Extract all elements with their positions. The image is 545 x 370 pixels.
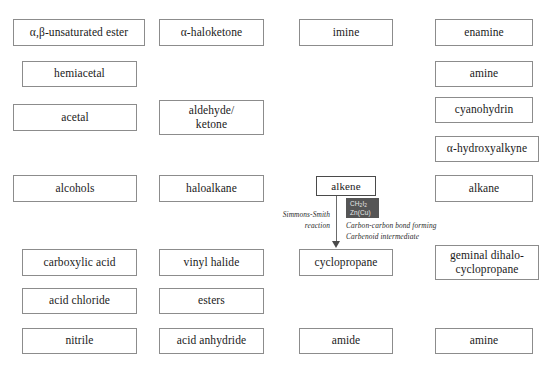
fg-label: cyclopropane [314, 256, 377, 270]
fg-box-imine[interactable]: imine [299, 19, 393, 46]
fg-box-alkene[interactable]: alkene [316, 176, 376, 196]
fg-label: α-hydroxyalkyne [447, 142, 527, 156]
fg-box-enamine[interactable]: enamine [435, 19, 533, 46]
fg-box-alpha-hydroxyalkyne[interactable]: α-hydroxyalkyne [435, 136, 539, 162]
fg-box-haloalkane[interactable]: haloalkane [159, 175, 264, 202]
annotation-reaction-name: Simmons-Smith reaction [272, 209, 330, 231]
fg-label: amine [470, 67, 499, 81]
fg-box-vinyl-halide[interactable]: vinyl halide [159, 249, 264, 276]
fg-label: alkane [469, 182, 500, 196]
reagent-chip: CH2I2 Zn(Cu) [346, 198, 379, 218]
reaction-arrow-head [332, 241, 340, 248]
annotation-mechanism: Carbon-carbon bond forming Carbenoid int… [346, 220, 476, 242]
fg-label: carboxylic acid [43, 256, 115, 270]
fg-label: α,β-unsaturated ester [30, 26, 128, 40]
annotation-line-1: Simmons-Smith [272, 209, 330, 220]
fg-box-acetal[interactable]: acetal [13, 104, 137, 131]
fg-box-amide[interactable]: amide [299, 328, 393, 354]
annotation-line-1: Carbon-carbon bond forming [346, 220, 476, 231]
fg-box-acid-chloride[interactable]: acid chloride [22, 288, 137, 314]
reaction-arrow-shaft [336, 196, 337, 243]
fg-label: acid chloride [49, 294, 110, 308]
fg-box-amine-bottom[interactable]: amine [435, 328, 533, 354]
fg-label: vinyl halide [184, 256, 240, 270]
reagent-line-2: Zn(Cu) [350, 209, 376, 218]
fg-box-nitrile[interactable]: nitrile [22, 328, 137, 354]
fg-box-hemiacetal[interactable]: hemiacetal [22, 61, 137, 87]
fg-box-alkane[interactable]: alkane [435, 175, 533, 202]
fg-label: alkene [331, 180, 360, 193]
fg-label: acid anhydride [177, 334, 246, 348]
fg-box-alpha-haloketone[interactable]: α-haloketone [159, 19, 264, 46]
fg-label: alcohols [55, 182, 94, 196]
fg-box-geminal-dihalo-cyclopropane[interactable]: geminal dihalo- cyclopropane [435, 245, 539, 280]
functional-group-diagram: α,β-unsaturated ester α-haloketone imine… [0, 0, 545, 370]
fg-label: cyanohydrin [455, 103, 514, 117]
fg-box-esters[interactable]: esters [159, 288, 264, 314]
fg-label: α-haloketone [181, 26, 243, 40]
fg-label: amine [470, 334, 499, 348]
fg-label: amide [332, 334, 361, 348]
fg-box-carboxylic-acid[interactable]: carboxylic acid [22, 249, 137, 276]
fg-box-cyanohydrin[interactable]: cyanohydrin [435, 97, 533, 123]
annotation-line-2: Carbenoid intermediate [346, 231, 476, 242]
fg-label: nitrile [65, 334, 93, 348]
fg-label: acetal [61, 111, 88, 125]
fg-label: enamine [464, 26, 504, 40]
fg-box-amine-top[interactable]: amine [435, 61, 533, 87]
fg-box-alpha-beta-unsaturated-ester[interactable]: α,β-unsaturated ester [13, 19, 145, 46]
fg-label: haloalkane [186, 182, 237, 196]
fg-box-alcohols[interactable]: alcohols [13, 175, 137, 202]
fg-label: hemiacetal [54, 67, 105, 81]
reagent-line-1: CH2I2 [350, 200, 376, 209]
fg-label: aldehyde/ ketone [189, 104, 235, 131]
fg-box-acid-anhydride[interactable]: acid anhydride [159, 328, 264, 354]
fg-box-cyclopropane[interactable]: cyclopropane [299, 249, 393, 276]
fg-label: geminal dihalo- cyclopropane [450, 249, 524, 276]
fg-box-aldehyde-ketone[interactable]: aldehyde/ ketone [159, 100, 264, 135]
fg-label: imine [333, 26, 360, 40]
annotation-line-2: reaction [272, 220, 330, 231]
fg-label: esters [198, 294, 225, 308]
